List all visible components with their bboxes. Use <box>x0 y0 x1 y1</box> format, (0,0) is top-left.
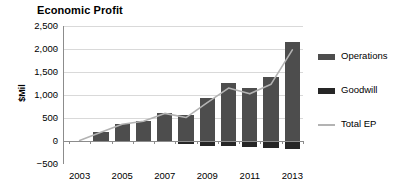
x-tick-mark <box>154 141 155 144</box>
legend-color-swatch-icon <box>318 54 335 60</box>
x-tick-label: 2007 <box>145 170 185 181</box>
x-tick-label: 2013 <box>272 170 312 181</box>
economic-profit-chart: Economic Profit $Mil 2,5002,0001,5001,00… <box>0 0 404 195</box>
legend-item-label: Operations <box>341 50 387 62</box>
x-tick-mark <box>260 141 261 144</box>
x-tick-label: 2011 <box>230 170 270 181</box>
y-tick-mark <box>55 141 58 142</box>
y-tick-mark <box>55 26 58 27</box>
y-tick-mark <box>55 49 58 50</box>
x-tick-mark <box>282 141 283 144</box>
y-tick-label: −500 <box>12 158 58 169</box>
legend-line-swatch-icon <box>318 124 335 126</box>
y-axis-line <box>63 26 64 164</box>
legend-item-label: Goodwill <box>341 84 377 96</box>
x-tick-mark <box>239 141 240 144</box>
legend-item[interactable]: Total EP <box>318 118 404 152</box>
y-tick-label: 500 <box>12 112 58 123</box>
y-tick-mark <box>55 95 58 96</box>
x-tick-mark <box>218 141 219 144</box>
y-tick-label: 0 <box>12 135 58 146</box>
y-tick-mark <box>55 118 58 119</box>
legend-item-label: Total EP <box>341 118 376 130</box>
x-tick-mark <box>197 141 198 144</box>
legend-item[interactable]: Operations <box>318 50 404 84</box>
zero-baseline <box>63 141 303 142</box>
legend-item[interactable]: Goodwill <box>318 84 404 118</box>
y-axis-ticks: 2,5002,0001,5001,0005000−500 <box>6 0 58 195</box>
y-tick-label: 1,500 <box>12 66 58 77</box>
x-tick-mark <box>69 141 70 144</box>
plot-area <box>63 26 303 164</box>
y-tick-mark <box>55 164 58 165</box>
x-tick-mark <box>175 141 176 144</box>
y-tick-label: 1,000 <box>12 89 58 100</box>
x-tick-label: 2009 <box>187 170 227 181</box>
y-tick-label: 2,500 <box>12 20 58 31</box>
chart-legend: OperationsGoodwillTotal EP <box>318 50 404 152</box>
x-axis-labels: 200320052007200920112013 <box>63 170 313 186</box>
x-tick-mark <box>112 141 113 144</box>
total-ep-line <box>63 26 303 164</box>
y-tick-mark <box>55 72 58 73</box>
y-tick-label: 2,000 <box>12 43 58 54</box>
x-tick-label: 2005 <box>102 170 142 181</box>
x-tick-mark <box>90 141 91 144</box>
x-tick-mark <box>133 141 134 144</box>
legend-color-swatch-icon <box>318 88 335 94</box>
x-tick-mark <box>303 141 304 144</box>
x-tick-label: 2003 <box>60 170 100 181</box>
